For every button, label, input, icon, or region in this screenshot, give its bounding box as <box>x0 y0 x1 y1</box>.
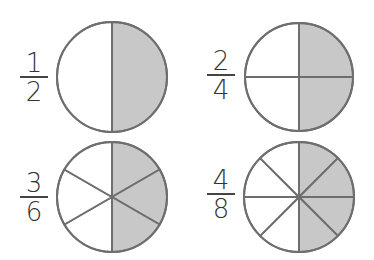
pie-eighths <box>0 0 374 260</box>
